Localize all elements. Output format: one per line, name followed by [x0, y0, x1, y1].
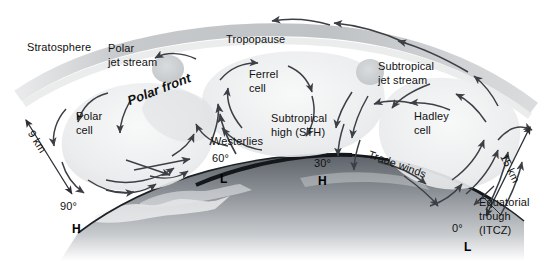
label-equatorial-trough-line1: Equatorial [479, 196, 530, 208]
pressure-label-polar-high: H [72, 222, 81, 236]
label-ferrel-cell-line1: Ferrel [249, 68, 278, 80]
circulation-diagram: Stratosphere Tropopause Polar jet stream… [0, 0, 544, 261]
label-subtropical-high-line2: high (STH) [271, 126, 325, 138]
label-equatorial-trough-line3: (ITCZ) [479, 224, 511, 236]
pressure-label-equatorial-low: L [464, 240, 471, 254]
label-latitude-30: 30° [314, 157, 331, 169]
pressure-label-subtropical-high: H [318, 174, 327, 188]
label-latitude-60: 60° [212, 152, 229, 164]
label-subtropical-jet-stream-line2: jet stream [378, 74, 427, 86]
label-subtropical-high-line1: Subtropical [271, 112, 327, 124]
label-polar-cell-line2: cell [76, 124, 93, 136]
label-polar-jet-stream-line2: jet stream [108, 56, 157, 68]
label-stratosphere: Stratosphere [27, 41, 91, 53]
label-westerlies: Westerlies [211, 135, 263, 147]
label-subtropical-jet-stream-line1: Subtropical [378, 60, 434, 72]
label-hadley-cell-line1: Hadley [414, 110, 449, 122]
label-polar-cell-line1: Polar [76, 110, 102, 122]
label-equatorial-trough-line2: trough [479, 210, 511, 222]
label-polar-jet-stream-line1: Polar [108, 42, 134, 54]
label-latitude-0: 0° [452, 222, 463, 234]
label-tropopause: Tropopause [226, 33, 285, 45]
label-ferrel-cell-line2: cell [249, 82, 266, 94]
pressure-label-subpolar-low: L [220, 172, 227, 186]
label-latitude-90: 90° [60, 200, 77, 212]
label-hadley-cell-line2: cell [414, 124, 431, 136]
